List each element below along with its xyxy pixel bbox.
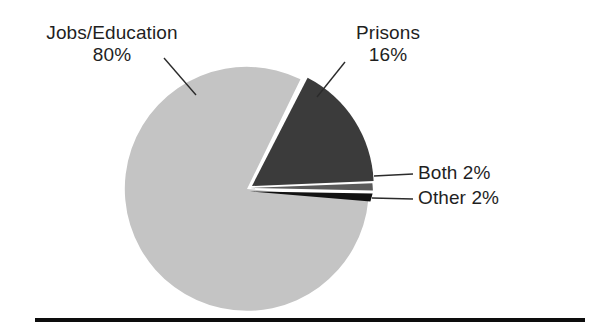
slice-label-jobs-education-name: Jobs/Education: [46, 22, 177, 43]
slice-label-prisons-name: Prisons: [356, 22, 420, 43]
slice-label-jobs-education-value: 80%: [38, 44, 186, 66]
slice-label-both: Both 2%: [418, 162, 491, 184]
leader-line-other: [372, 198, 413, 199]
slice-label-jobs-education: Jobs/Education 80%: [38, 22, 186, 66]
slice-label-prisons: Prisons 16%: [348, 22, 428, 66]
bottom-divider-rule: [35, 318, 585, 322]
slice-label-other: Other 2%: [418, 187, 499, 209]
leader-line-both: [374, 174, 413, 176]
leader-line-prisons: [317, 62, 345, 97]
slice-label-prisons-value: 16%: [348, 44, 428, 66]
pie-chart-figure: Jobs/Education 80% Prisons 16% Both 2% O…: [0, 0, 610, 330]
